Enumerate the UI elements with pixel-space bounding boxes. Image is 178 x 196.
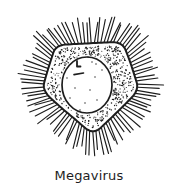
megavirus-illustration [0, 0, 178, 196]
virus-core [62, 57, 112, 113]
illustration-page: Megavirus [0, 0, 178, 196]
figure-caption: Megavirus [0, 168, 178, 184]
megavirus-figure: Megavirus [0, 0, 178, 196]
